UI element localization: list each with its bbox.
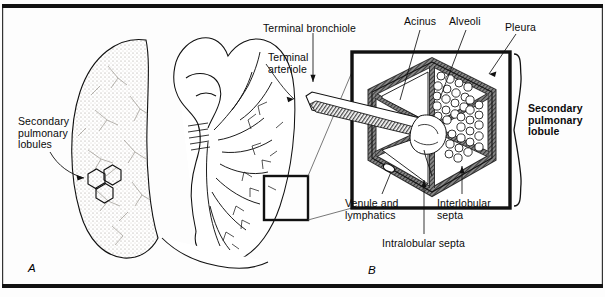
label-pleura: Pleura — [505, 22, 536, 34]
panel-label-b: B — [368, 264, 376, 276]
label-terminal-arteriole: Terminal arteriole — [268, 52, 308, 75]
label-alveoli: Alveoli — [449, 16, 481, 28]
panel-label-a: A — [28, 262, 36, 274]
figure-secondary-pulmonary-lobule: Secondary pulmonary lobules Terminal bro… — [0, 0, 605, 297]
label-secondary-pulmonary-lobules: Secondary pulmonary lobules — [18, 116, 69, 151]
label-acinus: Acinus — [404, 16, 436, 28]
label-intralobular-septa: Intralobular septa — [382, 238, 465, 250]
panel-b-inset — [306, 52, 510, 208]
label-venule-and-lymphatics: Venule and lymphatics — [345, 198, 399, 221]
label-terminal-bronchiole: Terminal bronchiole — [263, 23, 356, 35]
secondary-pulmonary-lobule-brace — [514, 54, 521, 206]
label-interlobular-septa: Interlobular septa — [437, 198, 491, 221]
figure-artwork — [0, 0, 605, 297]
label-secondary-pulmonary-lobule: Secondary pulmonary lobule — [528, 103, 583, 138]
panel-a-lung — [72, 39, 158, 258]
